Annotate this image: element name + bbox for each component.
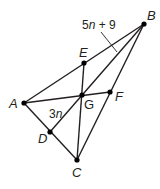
median-ce xyxy=(77,63,84,160)
point-e xyxy=(81,60,86,65)
point-f xyxy=(107,89,112,94)
median-af xyxy=(24,92,110,103)
point-b xyxy=(141,21,146,26)
label-f: F xyxy=(115,89,124,104)
label-g: G xyxy=(84,97,94,112)
label-b: B xyxy=(147,8,156,23)
label-c: C xyxy=(72,165,82,180)
label-bg-expression: 5n + 9 xyxy=(82,18,116,32)
label-gd-expression: 3n xyxy=(49,107,63,121)
label-d: D xyxy=(38,131,47,146)
triangle-diagram: A B C D E F G 5n + 9 3n xyxy=(0,0,160,189)
median-bd xyxy=(50,24,144,132)
label-a: A xyxy=(8,96,18,111)
label-leader-line xyxy=(101,32,117,52)
point-a xyxy=(21,100,26,105)
point-d xyxy=(47,129,52,134)
point-c xyxy=(74,157,79,162)
label-e: E xyxy=(79,45,88,60)
